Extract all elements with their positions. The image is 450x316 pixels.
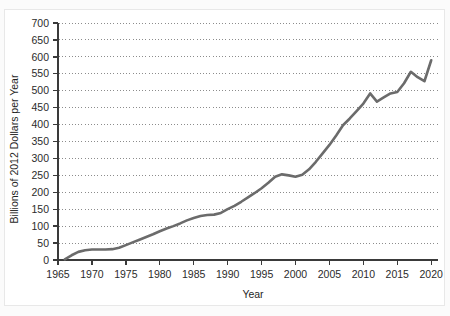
x-axis-title: Year: [242, 288, 264, 300]
x-tick-label: 1965: [46, 268, 70, 280]
y-tick-label: 50: [37, 237, 49, 249]
y-tick-label: 250: [31, 169, 49, 181]
y-tick-label: 600: [31, 51, 49, 63]
chart-card: 0501001502002503003504004505005506006507…: [4, 9, 445, 306]
y-tick-label: 450: [31, 101, 49, 113]
y-tick-label: 300: [31, 152, 49, 164]
x-tick-label: 1975: [114, 268, 138, 280]
y-tick-label: 350: [31, 135, 49, 147]
x-tick-label: 2005: [318, 268, 342, 280]
x-tick-label: 2015: [386, 268, 410, 280]
y-tick-label: 650: [31, 34, 49, 46]
y-tick-label: 100: [31, 220, 49, 232]
x-tick-label: 1980: [148, 268, 172, 280]
y-tick-label: 700: [31, 17, 49, 29]
gridlines-group: [59, 23, 438, 260]
y-tick-label: 0: [43, 254, 49, 266]
y-tick-label: 550: [31, 67, 49, 79]
x-tick-label: 1970: [80, 268, 104, 280]
y-tick-label: 500: [31, 84, 49, 96]
x-tick-label: 1985: [182, 268, 206, 280]
y-axis-title: Billions of 2012 Dollars per Year: [8, 74, 20, 223]
line-chart: 0501001502002503003504004505005506006507…: [5, 10, 444, 305]
y-tick-label: 200: [31, 186, 49, 198]
figure-root: 0501001502002503003504004505005506006507…: [0, 0, 450, 316]
x-tick-label: 2010: [352, 268, 376, 280]
y-tick-label: 150: [31, 203, 49, 215]
x-tick-label: 1995: [250, 268, 274, 280]
top-caption-fragment: [0, 0, 450, 9]
data-series-line: [65, 60, 431, 259]
x-tick-label: 2020: [420, 268, 444, 280]
x-tick-label: 2000: [284, 268, 308, 280]
x-tick-labels-group: 1965197019751980198519901995200020052010…: [46, 268, 443, 280]
y-tick-labels-group: 0501001502002503003504004505005506006507…: [31, 17, 49, 266]
x-tick-label: 1990: [216, 268, 240, 280]
y-tick-label: 400: [31, 118, 49, 130]
